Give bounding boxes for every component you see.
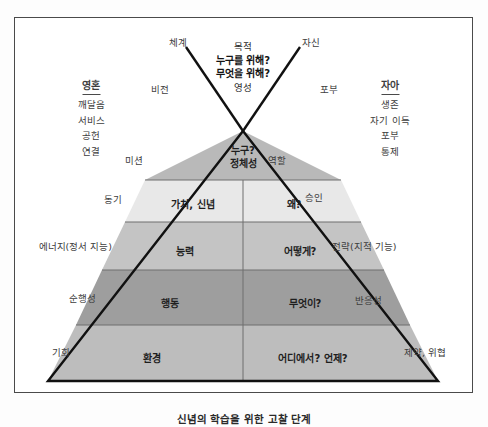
tier-behaviour-left-cell: 행동 (161, 295, 179, 310)
right-column-item: 자기 이득 (370, 113, 409, 129)
right-column-item: 생존 (370, 97, 409, 113)
tier-environment-right-cell: 어디에서? 언제? (278, 350, 347, 365)
tier-capability-left-label: 에너지(정서 지능) (39, 239, 112, 253)
apex-center-line-2: 누구를 위해? (216, 54, 270, 68)
apex-left-branch-label: 체계 (169, 37, 187, 49)
tier-identity-right-label: 역할 (268, 153, 286, 167)
right-column-item: 포부 (370, 128, 409, 144)
right-column-heading: 자아 (381, 79, 399, 95)
tier-behaviour-right-cell: 무엇이? (289, 295, 322, 310)
left-column-item: 연결 (78, 144, 105, 160)
tier-behaviour-right-label: 반응성 (355, 293, 382, 307)
left-column-item: 공헌 (78, 128, 105, 144)
left-column-soul: 영혼 깨달음 서비스 공헌 연결 (78, 74, 105, 159)
tier-values-right-label: 승인 (305, 190, 323, 204)
apex-right-branch-label: 자신 (302, 37, 320, 49)
tier-behaviour-left-label: 순행성 (69, 291, 96, 305)
tier-identity-cell: 누구? 정체성 (230, 144, 257, 170)
tier-environment-left-cell: 환경 (143, 350, 161, 365)
left-column-heading: 영혼 (82, 79, 100, 95)
left-column-item: 깨달음 (78, 97, 105, 113)
right-column-ego: 자아 생존 자기 이득 포부 통제 (370, 74, 409, 159)
diagram-root: 체계 자신 목적 누구를 위해? 무엇을 위해? 영성 비전 포부 영혼 깨달음… (0, 0, 488, 427)
apex-center-line-3: 무엇을 위해? (216, 67, 270, 81)
apex-right-inner-label: 포부 (320, 84, 338, 96)
apex-center-line-1: 목적 (216, 40, 270, 54)
apex-center-block: 목적 누구를 위해? 무엇을 위해? 영성 (216, 40, 270, 94)
tier-capability-right-label: 전략(지적 기능) (332, 239, 396, 253)
tier-values-left-label: 동기 (104, 192, 122, 206)
apex-left-inner-label: 비전 (151, 84, 169, 96)
tier-capability-left-cell: 능력 (176, 243, 194, 258)
tier-identity-left-label: 미션 (125, 153, 143, 167)
tier-identity-cell-line1: 누구? (230, 144, 257, 157)
tier-identity-cell-line2: 정체성 (230, 157, 257, 170)
tier-values-right-cell: 왜? (287, 196, 302, 211)
right-column-item: 통제 (370, 144, 409, 160)
tier-environment-right-label: 제약, 위협 (404, 345, 446, 359)
left-column-item: 서비스 (78, 113, 105, 129)
tier-environment-left-label: 기회 (52, 345, 70, 359)
figure-caption: 신념의 학습을 위한 고찰 단계 (177, 411, 312, 427)
tier-values-left-cell: 가치, 신념 (171, 196, 214, 211)
tier-capability-right-cell: 어떻게? (284, 243, 317, 258)
apex-center-line-4: 영성 (216, 81, 270, 95)
